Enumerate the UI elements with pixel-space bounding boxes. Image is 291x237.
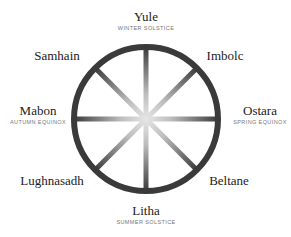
node-beltane: Beltane — [209, 174, 249, 188]
node-litha: Litha SUMMER SOLSTICE — [116, 204, 175, 226]
node-mabon: Mabon AUTUMN EQUINOX — [10, 104, 66, 126]
node-lughnasadh: Lughnasadh — [20, 174, 84, 188]
node-samhain-name: Samhain — [34, 49, 80, 63]
node-yule: Yule WINTER SOLSTICE — [118, 10, 174, 32]
node-beltane-name: Beltane — [209, 174, 249, 188]
node-mabon-subtitle: AUTUMN EQUINOX — [10, 118, 66, 126]
node-ostara-name: Ostara — [233, 104, 287, 118]
node-litha-subtitle: SUMMER SOLSTICE — [116, 218, 175, 226]
node-lughnasadh-name: Lughnasadh — [20, 174, 84, 188]
node-imbolc-name: Imbolc — [207, 49, 244, 63]
node-imbolc: Imbolc — [207, 49, 244, 63]
node-samhain: Samhain — [34, 49, 80, 63]
node-yule-subtitle: WINTER SOLSTICE — [118, 24, 174, 32]
node-mabon-name: Mabon — [10, 104, 66, 118]
node-ostara: Ostara SPRING EQUINOX — [233, 104, 287, 126]
node-litha-name: Litha — [116, 204, 175, 218]
node-ostara-subtitle: SPRING EQUINOX — [233, 118, 287, 126]
node-yule-name: Yule — [118, 10, 174, 24]
